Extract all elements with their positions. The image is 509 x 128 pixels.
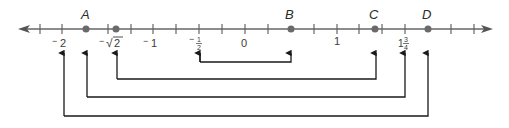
bracket-neghalf-to-b xyxy=(200,53,291,62)
svg-text:1: 1 xyxy=(151,37,157,49)
bracket-arrows xyxy=(64,53,428,116)
svg-text:−: − xyxy=(52,36,57,46)
svg-text:1: 1 xyxy=(197,36,201,43)
tick-label-neg-sqrt2: − √ 2 xyxy=(99,36,123,50)
svg-text:4: 4 xyxy=(404,44,408,51)
svg-text:2: 2 xyxy=(197,44,201,51)
point-label-d: D xyxy=(422,7,431,22)
point-c xyxy=(372,26,379,33)
svg-text:3: 3 xyxy=(404,36,408,43)
point-label-c: C xyxy=(369,7,379,22)
number-line-diagram: A B C D − 2 − √ 2 − 1 − 1 2 0 1 1 3 4 xyxy=(0,0,509,128)
point-label-a: A xyxy=(80,7,90,22)
tick-label-one: 1 xyxy=(334,35,340,47)
tick-label-neg-half: − 1 2 xyxy=(189,34,202,51)
tick-label-zero: 0 xyxy=(241,37,247,49)
svg-text:2: 2 xyxy=(60,37,66,49)
tick-label-one-three-quarters: 1 3 4 xyxy=(398,36,409,51)
point-a xyxy=(83,26,90,33)
svg-text:−: − xyxy=(189,34,194,44)
tick-label-neg2: − 2 xyxy=(52,36,66,49)
svg-text:−: − xyxy=(143,36,148,46)
tick-label-neg1: − 1 xyxy=(143,36,157,49)
svg-text:√: √ xyxy=(106,36,113,50)
point-label-b: B xyxy=(285,7,294,22)
svg-text:2: 2 xyxy=(114,37,120,49)
point-b xyxy=(288,26,295,33)
point-d xyxy=(425,26,432,33)
point-neg-sqrt2 xyxy=(113,26,120,33)
svg-text:−: − xyxy=(99,36,104,46)
